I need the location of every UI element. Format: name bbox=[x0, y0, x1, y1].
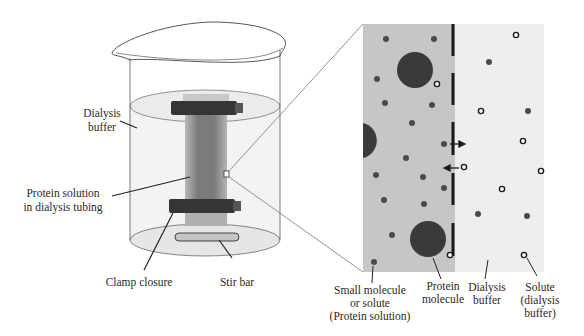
label-solute: Solute bbox=[525, 281, 554, 293]
dialysis-tubing bbox=[185, 106, 227, 206]
label-small-molecule-3: (Protein solution) bbox=[330, 310, 411, 323]
label-clamp-closure: Clamp closure bbox=[106, 276, 173, 289]
beaker bbox=[112, 22, 286, 256]
clamp-bottom bbox=[169, 199, 241, 213]
magnify-region bbox=[224, 171, 229, 177]
label-protein-solution: Protein solution bbox=[26, 187, 99, 199]
label-dialysis-buffer: Dialysis bbox=[83, 107, 121, 120]
label-stir-bar: Stir bar bbox=[220, 276, 254, 288]
label-dialysis-buffer-mag: Dialysis bbox=[468, 281, 506, 294]
label-protein-molecule-2: molecule bbox=[422, 293, 464, 305]
label-small-molecule-2: or solute bbox=[350, 297, 390, 309]
label-solute-2: (dialysis bbox=[521, 294, 560, 307]
buffer-side bbox=[455, 24, 544, 272]
label-protein-solution-2: in dialysis tubing bbox=[23, 201, 102, 214]
label-protein-molecule: Protein bbox=[426, 280, 459, 292]
clamp-top bbox=[171, 101, 243, 115]
stir-bar bbox=[175, 233, 239, 241]
label-dialysis-buffer-2: buffer bbox=[88, 121, 116, 133]
label-small-molecule: Small molecule bbox=[334, 284, 406, 296]
magnified-view bbox=[363, 24, 544, 272]
label-dialysis-buffer-mag-2: buffer bbox=[473, 294, 501, 306]
label-solute-3: buffer) bbox=[524, 307, 556, 320]
dialysis-diagram: Dialysis buffer Protein solution in dial… bbox=[0, 0, 584, 336]
